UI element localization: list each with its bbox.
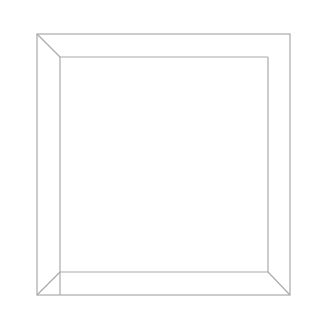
chart (0, 0, 323, 314)
box-frame (37, 34, 290, 295)
